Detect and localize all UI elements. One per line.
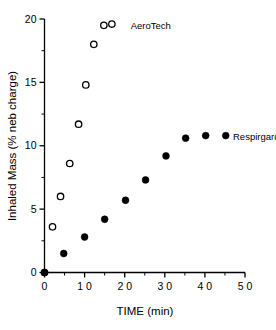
data-point [101,216,108,223]
chart-figure: 05101520 01 02 03 04 05 0 AeroTech Respi… [0,0,276,330]
data-point [101,22,107,28]
data-point [49,224,55,230]
y-tick-label: 15 [25,76,37,88]
data-point [41,269,48,276]
x-tick-label: 0 [42,280,48,292]
x-tick-label: 2 0 [117,280,132,292]
y-axis-title: Inhaled Mass (% neb charge) [6,71,18,221]
x-axis-title: TIME (min) [117,305,174,317]
data-point [163,152,170,159]
x-tick-label: 3 0 [157,280,172,292]
data-point [202,132,209,139]
y-axis-ticks: 05101520 [25,13,45,279]
data-point [91,41,97,47]
data-point [222,132,229,139]
series-label-respirgard: Respirgard [233,131,276,142]
data-point [109,21,115,27]
series-respirgard-points [41,132,229,276]
data-point [142,177,149,184]
data-point [122,197,129,204]
data-point [83,82,89,88]
data-point [60,250,67,257]
y-tick-label: 20 [25,13,37,25]
x-tick-label: 5 0 [238,280,253,292]
data-point [81,234,88,241]
series-aerotech-points [41,21,115,276]
y-tick-label: 5 [31,203,37,215]
scatter-plot: 05101520 01 02 03 04 05 0 AeroTech Respi… [0,0,276,330]
x-tick-label: 4 0 [198,280,213,292]
y-tick-label: 0 [31,266,37,278]
data-point [75,121,81,127]
x-tick-label: 1 0 [77,280,92,292]
series-label-aerotech: AeroTech [131,20,171,31]
data-point [182,135,189,142]
data-point [57,193,63,199]
axes-group [45,19,246,273]
x-axis-ticks: 01 02 03 04 05 0 [42,273,253,292]
data-point [67,160,73,166]
y-tick-label: 10 [25,139,37,151]
